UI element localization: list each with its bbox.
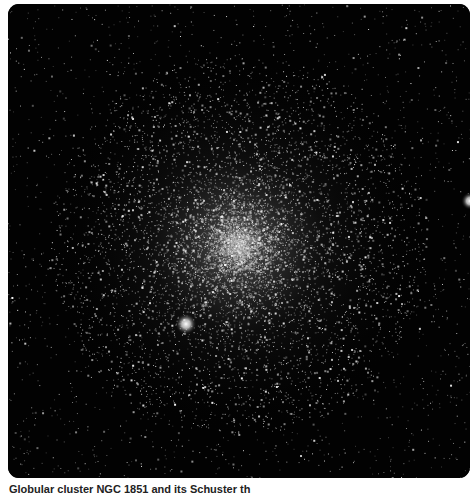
image-caption: Globular cluster NGC 1851 and its Schust…	[9, 482, 250, 496]
star-cluster-image	[8, 4, 470, 478]
astronomy-photo	[8, 4, 470, 478]
